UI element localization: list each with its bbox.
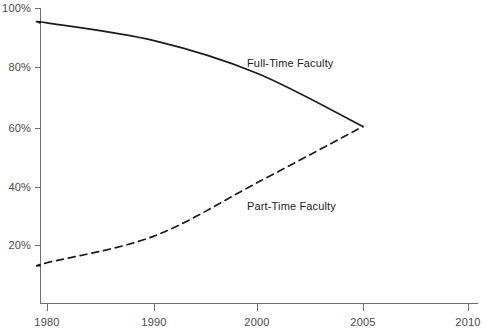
y-tick-label-20: 20% bbox=[8, 239, 31, 251]
series-label-full-time-faculty: Full-Time Faculty bbox=[247, 57, 334, 69]
y-tick-label-100: 100% bbox=[2, 2, 31, 14]
x-tick-label-1990: 1990 bbox=[141, 316, 166, 328]
line-chart: 100% 80% 60% 40% 20% 1980 1990 2000 2005… bbox=[0, 0, 491, 334]
x-tick-label-2000: 2000 bbox=[244, 316, 269, 328]
x-tick-label-1980: 1980 bbox=[34, 316, 59, 328]
y-tick-label-80: 80% bbox=[8, 61, 31, 73]
x-tick-label-2010: 2010 bbox=[455, 316, 480, 328]
series-line-part-time-faculty bbox=[37, 127, 363, 266]
y-tick-label-40: 40% bbox=[8, 181, 31, 193]
series-line-full-time-faculty bbox=[37, 21, 363, 126]
series-label-part-time-faculty: Part-Time Faculty bbox=[247, 200, 336, 212]
chart-container: 100% 80% 60% 40% 20% 1980 1990 2000 2005… bbox=[0, 0, 491, 334]
x-tick-label-2005: 2005 bbox=[350, 316, 375, 328]
y-tick-label-60: 60% bbox=[8, 122, 31, 134]
